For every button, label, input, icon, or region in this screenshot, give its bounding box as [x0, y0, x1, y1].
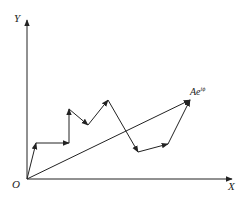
phasor-step	[168, 100, 190, 144]
phasor-step	[69, 109, 88, 125]
resultant-vector	[27, 100, 190, 179]
phasor-step	[108, 100, 138, 152]
x-axis-label: X	[228, 180, 235, 192]
origin-label: O	[12, 178, 20, 190]
resultant-label: Aeiϕ	[190, 86, 205, 97]
y-axis-label: Y	[14, 12, 20, 24]
phasor-step	[27, 143, 36, 179]
phasor-step	[138, 144, 168, 152]
phasor-diagram	[0, 0, 252, 204]
phasor-step	[88, 100, 108, 125]
